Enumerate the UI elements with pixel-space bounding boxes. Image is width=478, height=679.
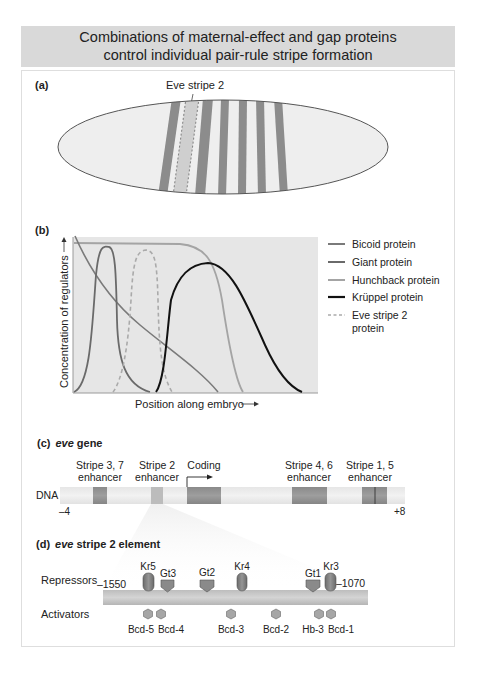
dna-label: DNA [36,489,58,501]
enhancer-stripe-4-6 [292,487,327,504]
legend-eve-line2: protein [352,322,384,334]
y-axis-arrow [62,237,67,252]
activator-label-bcd-1: Bcd-1 [328,624,355,635]
legend-giant: Giant protein [352,256,412,268]
activator-bcd-2 [272,609,281,619]
activator-label-bcd-2: Bcd-2 [263,624,290,635]
repressor-kr3 [325,573,336,591]
repressor-label-kr5: Kr5 [140,561,156,572]
figure-canvas: (a) Eve stripe 2 (b) Concentration of re… [0,0,478,679]
stripe-2-element-bar [103,590,368,605]
region-sublabel-stripe-4-6: enhancer [287,471,331,483]
y-axis-label: Concentration of regulators [58,255,70,388]
element-right-coord: –1070 [336,577,365,589]
repressor-label-kr3: Kr3 [323,561,339,572]
activator-hb-3 [315,609,324,619]
legend: Bicoid protein Giant protein Hunchback p… [328,238,440,334]
panel-a-label: (a) [35,79,49,91]
region-label-stripe-3-7: Stripe 3, 7 [76,459,124,471]
activators-label: Activators [41,608,90,620]
activator-sites [144,609,336,619]
enhancer-stripe-2 [151,487,163,504]
enhancer-stripe-1-5 [362,487,387,504]
embryo [58,98,388,196]
region-label-stripe-4-6: Stripe 4, 6 [285,459,333,471]
legend-bicoid: Bicoid protein [352,238,416,250]
repressor-kr4 [237,573,247,591]
dna-right-coord: +8 [394,506,406,517]
coding-region [187,487,221,504]
repressor-label-gt1: Gt1 [305,568,322,579]
panel-d-label: (d)evestripe 2 element [36,538,161,550]
x-axis-label: Position along embryo [135,398,244,410]
region-sublabel-stripe-1-5: enhancer [348,471,392,483]
dna-left-coord: –4 [59,506,71,517]
activator-label-bcd-4: Bcd-4 [158,624,185,635]
region-sublabel-stripe-3-7: enhancer [78,471,122,483]
activator-bcd-1 [327,609,336,619]
element-left-coord: –1550 [97,578,126,590]
activator-label-bcd-5: Bcd-5 [128,624,155,635]
stripe-5 [238,98,247,196]
dna-bar [60,487,405,504]
transcription-start-arrow [187,475,213,488]
activator-bcd-3 [227,609,236,619]
region-label-coding: Coding [187,459,220,471]
repressor-label-gt3: Gt3 [160,568,177,579]
eve-stripe-2-callout: Eve stripe 2 [166,79,224,91]
repressor-kr5 [143,573,154,591]
panel-b-label: (b) [35,224,49,236]
region-sublabel-stripe-2: enhancer [135,471,179,483]
legend-kruppel: Krüppel protein [352,291,423,303]
region-label-stripe-1-5: Stripe 1, 5 [346,459,394,471]
repressors-label: Repressors [41,574,98,586]
repressor-label-gt2: Gt2 [199,567,216,578]
region-label-stripe-2: Stripe 2 [139,459,175,471]
repressor-label-kr4: Kr4 [234,561,250,572]
activator-label-hb-3: Hb-3 [302,624,324,635]
legend-eve: Eve stripe 2 [352,309,408,321]
panel-c-label: (c)evegene [37,437,103,449]
activator-label-bcd-3: Bcd-3 [218,624,245,635]
activator-bcd-5 [144,609,153,619]
activator-bcd-4 [157,609,166,619]
enhancer-stripe-3-7 [93,487,107,504]
legend-hunchback: Hunchback protein [352,274,440,286]
